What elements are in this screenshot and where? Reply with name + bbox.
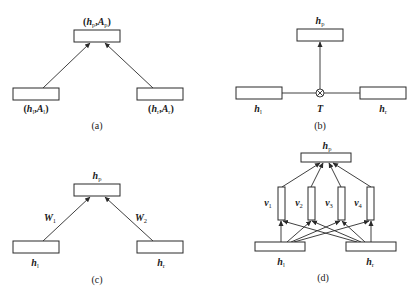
panel-a-top-label: (hp,Ap) bbox=[83, 16, 111, 28]
panel-a: (hp,Ap) (hl,Al) (hr,Ar) (a) bbox=[13, 16, 183, 132]
panel-d-left-node bbox=[255, 242, 305, 251]
panel-c-top-label: hp bbox=[93, 170, 102, 182]
panel-d-right-label: hr bbox=[366, 256, 375, 268]
panel-c: hp W1 W2 hl hr (c) bbox=[13, 170, 183, 286]
panel-d-input-edges bbox=[281, 221, 371, 242]
panel-d-parent-node bbox=[301, 153, 351, 162]
panel-a-left-node bbox=[13, 88, 59, 100]
panel-d-left-label: hl bbox=[277, 256, 285, 268]
panel-c-right-weight: W2 bbox=[135, 212, 147, 224]
panel-c-caption: (c) bbox=[91, 274, 102, 286]
panel-a-right-label: (hr,Ar) bbox=[148, 103, 174, 115]
panel-c-right-label: hr bbox=[157, 257, 166, 269]
panel-c-parent-node bbox=[74, 184, 120, 196]
panel-b-tensor-label: T bbox=[317, 103, 324, 114]
panel-a-right-node bbox=[137, 88, 183, 100]
panel-d-v3-label: v3 bbox=[325, 197, 333, 209]
panel-b-right-label: hr bbox=[379, 103, 388, 115]
panel-a-left-label: (hl,Al) bbox=[23, 103, 48, 115]
panel-a-parent-node bbox=[74, 30, 120, 42]
panel-b-right-node bbox=[360, 87, 406, 99]
panel-d-v3-node bbox=[338, 187, 345, 220]
panel-d-v2-edge bbox=[311, 163, 323, 187]
panel-a-right-edge bbox=[105, 43, 153, 88]
panel-b: hp hl T hr (b) bbox=[236, 15, 406, 132]
panel-d-v1-edge bbox=[282, 163, 320, 187]
panel-c-left-node bbox=[13, 241, 59, 253]
panel-c-right-node bbox=[137, 241, 183, 253]
composition-diagrams: (hp,Ap) (hl,Al) (hr,Ar) (a) hp hl T hr (… bbox=[0, 0, 415, 294]
panel-d-v1-node bbox=[278, 187, 285, 220]
panel-d-top-label: hp bbox=[323, 140, 332, 152]
panel-d-v4-label: v4 bbox=[354, 197, 362, 209]
tensor-product-icon bbox=[316, 89, 324, 97]
panel-d-right-node bbox=[346, 242, 396, 251]
panel-d-v4-node bbox=[367, 187, 374, 220]
panel-b-caption: (b) bbox=[314, 120, 326, 132]
panel-a-caption: (a) bbox=[91, 120, 102, 132]
panel-c-left-weight: W1 bbox=[44, 212, 56, 224]
panel-b-top-label: hp bbox=[316, 15, 325, 27]
panel-a-left-edge bbox=[43, 43, 90, 88]
panel-b-parent-node bbox=[297, 29, 343, 41]
panel-d: hp v1 v2 v3 v4 hl hr (d) bbox=[255, 140, 396, 284]
panel-d-v2-label: v2 bbox=[295, 197, 303, 209]
panel-d-v1-label: v1 bbox=[264, 197, 272, 209]
panel-b-left-node bbox=[236, 87, 282, 99]
panel-d-v2-node bbox=[308, 187, 315, 220]
panel-b-left-label: hl bbox=[254, 103, 262, 115]
panel-c-left-label: hl bbox=[31, 257, 39, 269]
panel-d-caption: (d) bbox=[317, 272, 329, 284]
